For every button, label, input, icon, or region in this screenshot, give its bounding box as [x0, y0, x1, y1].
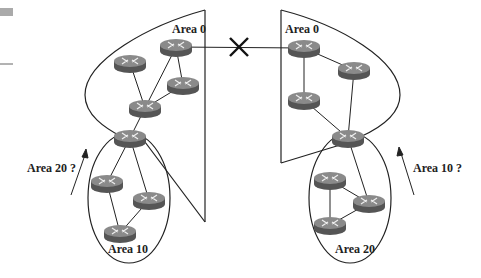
router-icon [288, 40, 320, 58]
arrow-icon [397, 147, 414, 195]
corner-block [0, 8, 13, 16]
router-icon [332, 130, 364, 148]
router-icon [133, 192, 165, 210]
router-icon [353, 195, 385, 213]
left-question-label: Area 20 ? [27, 161, 76, 175]
router-icon [129, 100, 161, 118]
router-icon [167, 77, 199, 95]
right-area0-label: Area 0 [285, 22, 319, 36]
router-icon [114, 130, 146, 148]
router-icon [288, 92, 320, 110]
router-icon [314, 217, 346, 235]
left-area0-label: Area 0 [172, 22, 206, 36]
area20-label: Area 20 [335, 242, 375, 256]
router-icon [314, 172, 346, 190]
right-question-label: Area 10 ? [413, 161, 462, 175]
router-icon [338, 62, 370, 80]
routers [91, 39, 385, 243]
router-icon [91, 175, 123, 193]
router-icon [160, 39, 192, 57]
area10-label: Area 10 [108, 242, 148, 256]
ospf-area-diagram: Area 0 Area 0 Area 10 Area 20 Area 20 ? … [0, 0, 481, 278]
router-icon [104, 225, 136, 243]
router-icon [114, 55, 146, 73]
